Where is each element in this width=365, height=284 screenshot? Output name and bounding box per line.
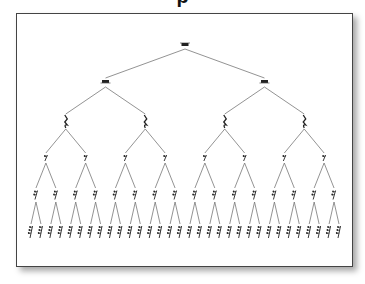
quarter-rest-icon: [303, 115, 306, 128]
thirtysecond-rest-icon: [207, 226, 212, 238]
thirtysecond-rest-icon: [217, 226, 222, 238]
thirtysecond-rest-icon: [276, 226, 281, 238]
quarter-rest-icon: [65, 115, 68, 128]
thirtysecond-rest-icon: [197, 226, 202, 238]
sixteenth-rest-icon: [53, 191, 57, 200]
thirtysecond-rest-icon: [177, 226, 182, 238]
sixteenth-rest-icon: [152, 191, 156, 200]
thirtysecond-rest-icon: [127, 226, 132, 238]
thirtysecond-rest-icon: [107, 226, 112, 238]
thirtysecond-rest-icon: [137, 226, 142, 238]
eighth-rest-icon: [44, 155, 47, 161]
thirtysecond-rest-icon: [87, 226, 92, 238]
sixteenth-rest-icon: [192, 191, 196, 200]
sixteenth-rest-icon: [133, 191, 137, 200]
eighth-rest-icon: [243, 155, 246, 161]
sixteenth-rest-icon: [252, 191, 256, 200]
thirtysecond-rest-icon: [266, 226, 271, 238]
sixteenth-rest-icon: [272, 191, 276, 200]
eighth-rest-icon: [123, 155, 126, 161]
tree-edges: [31, 49, 339, 224]
quarter-rest-icon: [144, 115, 147, 128]
quarter-rest-icon: [224, 115, 227, 128]
eighth-rest-icon: [84, 155, 87, 161]
sixteenth-rest-icon: [311, 191, 315, 200]
half-rest-icon: [101, 80, 111, 83]
rest-tree-diagram: [0, 0, 365, 284]
thirtysecond-rest-icon: [296, 226, 301, 238]
thirtysecond-rest-icon: [246, 226, 251, 238]
sixteenth-rest-icon: [232, 191, 236, 200]
sixteenth-rest-icon: [73, 191, 77, 200]
thirtysecond-rest-icon: [97, 226, 102, 238]
thirtysecond-rest-icon: [256, 226, 261, 238]
thirtysecond-rest-icon: [78, 226, 83, 238]
thirtysecond-rest-icon: [306, 226, 311, 238]
sixteenth-rest-icon: [212, 191, 216, 200]
sixteenth-rest-icon: [292, 191, 296, 200]
thirtysecond-rest-icon: [187, 226, 192, 238]
tree-nodes: [28, 43, 341, 238]
thirtysecond-rest-icon: [68, 226, 73, 238]
thirtysecond-rest-icon: [167, 226, 172, 238]
thirtysecond-rest-icon: [236, 226, 241, 238]
sixteenth-rest-icon: [113, 191, 117, 200]
thirtysecond-rest-icon: [28, 226, 33, 238]
thirtysecond-rest-icon: [48, 226, 53, 238]
thirtysecond-rest-icon: [157, 226, 162, 238]
whole-rest-icon: [180, 43, 190, 46]
thirtysecond-rest-icon: [58, 226, 63, 238]
thirtysecond-rest-icon: [316, 226, 321, 238]
eighth-rest-icon: [322, 155, 325, 161]
thirtysecond-rest-icon: [336, 226, 341, 238]
sixteenth-rest-icon: [172, 191, 176, 200]
thirtysecond-rest-icon: [117, 226, 122, 238]
half-rest-icon: [259, 80, 269, 83]
eighth-rest-icon: [203, 155, 206, 161]
sixteenth-rest-icon: [93, 191, 97, 200]
thirtysecond-rest-icon: [326, 226, 331, 238]
thirtysecond-rest-icon: [286, 226, 291, 238]
sixteenth-rest-icon: [331, 191, 335, 200]
thirtysecond-rest-icon: [147, 226, 152, 238]
eighth-rest-icon: [282, 155, 285, 161]
eighth-rest-icon: [163, 155, 166, 161]
thirtysecond-rest-icon: [38, 226, 43, 238]
sixteenth-rest-icon: [33, 191, 37, 200]
thirtysecond-rest-icon: [227, 226, 232, 238]
